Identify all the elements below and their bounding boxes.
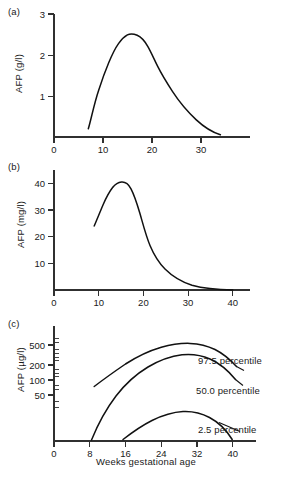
panel-b-xtick-40: 40	[228, 297, 239, 308]
panel-c-ytick-500: 500	[29, 340, 45, 351]
panel-c-ytick-50: 50	[34, 390, 45, 401]
panel-a-ytick-2: 2	[40, 50, 45, 61]
panel-b-xtick-30: 30	[183, 297, 194, 308]
panel-a-xtick-20: 20	[147, 144, 158, 155]
panel-b: (b) AFP (mg/l) 10 20 30 40 0 10 20 30	[0, 157, 292, 312]
panel-c-plot: 500 200 100 50 0 8 16 24 32 40	[0, 312, 292, 477]
panel-c-ytick-100: 100	[29, 375, 45, 386]
panel-c-xtick-32: 32	[192, 448, 203, 459]
panel-c-xtick-16: 16	[120, 448, 131, 459]
panel-b-ytick-40: 40	[34, 178, 45, 189]
panel-c: (c) AFP (µg/l) 97.5 percentile 50.0 perc…	[0, 312, 292, 477]
panel-b-ytick-20: 20	[34, 231, 45, 242]
panel-c-ytick-200: 200	[29, 360, 45, 371]
panel-c-curve-50-0	[92, 354, 236, 440]
panel-b-ytick-10: 10	[34, 258, 45, 269]
panel-b-xtick-20: 20	[138, 297, 149, 308]
panel-b-curve	[94, 182, 233, 290]
panel-a-ytick-3: 3	[40, 9, 45, 20]
panel-a-xtick-0: 0	[51, 144, 56, 155]
panel-c-xtick-0: 0	[51, 448, 56, 459]
panel-a: (a) AFP (g/l) 1 2 3 0 10 20 30	[0, 0, 292, 157]
panel-c-curve-2-5	[123, 411, 232, 439]
panel-a-xtick-30: 30	[196, 144, 207, 155]
panel-b-xtick-0: 0	[51, 297, 56, 308]
panel-b-xtick-10: 10	[93, 297, 104, 308]
panel-a-ytick-1: 1	[40, 91, 45, 102]
panel-a-curve	[88, 34, 220, 135]
panel-c-leader-97-5	[237, 367, 245, 371]
panel-c-xtick-24: 24	[156, 448, 167, 459]
panel-c-curve-97-5	[94, 343, 236, 386]
afp-gestational-age-figure: (a) AFP (g/l) 1 2 3 0 10 20 30	[0, 0, 292, 477]
panel-a-plot: 1 2 3 0 10 20 30	[0, 0, 292, 157]
panel-c-leader-50-0	[236, 380, 244, 386]
panel-b-ytick-30: 30	[34, 205, 45, 216]
panel-b-plot: 10 20 30 40 0 10 20 30 40	[0, 157, 292, 312]
panel-c-xtick-40: 40	[228, 448, 239, 459]
panel-c-xtick-8: 8	[87, 448, 92, 459]
panel-a-xtick-10: 10	[98, 144, 109, 155]
